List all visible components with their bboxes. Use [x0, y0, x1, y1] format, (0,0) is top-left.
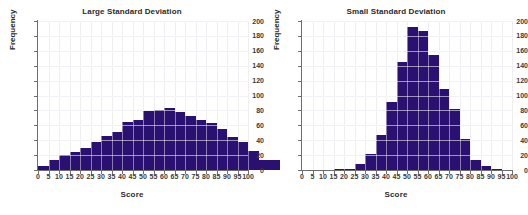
- y-tick-mark: [34, 110, 37, 111]
- bar: [481, 166, 492, 170]
- x-tick-label: 100: [238, 173, 258, 181]
- bar: [418, 31, 429, 170]
- y-tick-mark: [298, 66, 301, 67]
- bar: [217, 129, 228, 170]
- bar-series-left: [38, 21, 248, 170]
- y-tick-mark: [298, 81, 301, 82]
- y-tick-label: 60: [494, 122, 528, 129]
- bar: [91, 142, 102, 170]
- x-tick-mark: [512, 171, 513, 174]
- bar: [49, 160, 60, 170]
- y-tick-label: 20: [230, 152, 264, 159]
- y-tick-label: 140: [230, 62, 264, 69]
- bar: [428, 55, 439, 170]
- bar: [206, 123, 217, 170]
- bar: [397, 62, 408, 170]
- x-tick-mark: [248, 171, 249, 174]
- bar: [112, 132, 123, 170]
- bar: [185, 116, 196, 170]
- y-tick-mark: [34, 36, 37, 37]
- y-tick-mark: [298, 110, 301, 111]
- bar: [449, 109, 460, 170]
- y-tick-label: 160: [494, 47, 528, 54]
- bar: [133, 120, 144, 170]
- y-tick-label: 80: [494, 107, 528, 114]
- y-tick-label: 40: [494, 137, 528, 144]
- y-tick-label: 180: [230, 32, 264, 39]
- y-tick-mark: [298, 140, 301, 141]
- y-tick-mark: [34, 96, 37, 97]
- y-tick-label: 100: [230, 92, 264, 99]
- plot-area-left: [38, 21, 248, 170]
- y-tick-mark: [298, 125, 301, 126]
- bar-series-right: [302, 21, 512, 170]
- y-tick-label: 40: [230, 137, 264, 144]
- bar: [38, 166, 49, 170]
- bar: [70, 152, 81, 170]
- y-tick-mark: [298, 21, 301, 22]
- bar: [80, 148, 91, 170]
- y-tick-label: 180: [494, 32, 528, 39]
- y-tick-mark: [34, 140, 37, 141]
- bar: [386, 102, 397, 170]
- y-axis-title-right: Frequency: [272, 10, 281, 50]
- chart-title-large-sd: Large Standard Deviation: [0, 7, 264, 16]
- bar: [154, 110, 165, 170]
- chart-panel-large-sd: Large Standard Deviation Frequency 02040…: [0, 0, 264, 215]
- y-tick-label: 160: [230, 47, 264, 54]
- y-tick-mark: [298, 51, 301, 52]
- x-axis-title-right: Score: [264, 190, 528, 199]
- bar: [122, 122, 133, 170]
- bar: [344, 169, 355, 170]
- bar: [175, 112, 186, 170]
- y-tick-label: 80: [230, 107, 264, 114]
- bar: [439, 89, 450, 170]
- y-tick-mark: [298, 170, 301, 171]
- y-tick-mark: [34, 51, 37, 52]
- y-tick-mark: [34, 81, 37, 82]
- bar: [164, 108, 175, 170]
- y-tick-label: 120: [230, 77, 264, 84]
- y-tick-mark: [34, 21, 37, 22]
- y-tick-label: 20: [494, 152, 528, 159]
- y-tick-mark: [298, 36, 301, 37]
- y-tick-mark: [34, 125, 37, 126]
- bar: [196, 120, 207, 170]
- y-tick-label: 200: [494, 18, 528, 25]
- y-tick-label: 60: [230, 122, 264, 129]
- bar: [334, 169, 345, 170]
- bar: [59, 155, 70, 170]
- y-tick-label: 100: [494, 92, 528, 99]
- bar: [365, 154, 376, 170]
- bar: [460, 139, 471, 170]
- y-tick-mark: [34, 155, 37, 156]
- y-tick-mark: [298, 155, 301, 156]
- bar: [407, 27, 418, 170]
- bar: [101, 136, 112, 170]
- chart-title-small-sd: Small Standard Deviation: [264, 7, 528, 16]
- bar: [470, 160, 481, 170]
- y-tick-mark: [34, 170, 37, 171]
- y-tick-label: 200: [230, 18, 264, 25]
- y-tick-mark: [298, 96, 301, 97]
- y-axis-title-left: Frequency: [8, 10, 17, 50]
- y-tick-label: 120: [494, 77, 528, 84]
- y-tick-mark: [34, 66, 37, 67]
- bar: [355, 164, 366, 170]
- figure-root: Large Standard Deviation Frequency 02040…: [0, 0, 528, 215]
- y-tick-label: 140: [494, 62, 528, 69]
- x-axis-title-left: Score: [0, 190, 264, 199]
- x-tick-label: 100: [502, 173, 522, 181]
- plot-area-right: [302, 21, 512, 170]
- bar: [376, 135, 387, 170]
- chart-panel-small-sd: Small Standard Deviation Frequency 02040…: [264, 0, 528, 215]
- bar: [143, 111, 154, 170]
